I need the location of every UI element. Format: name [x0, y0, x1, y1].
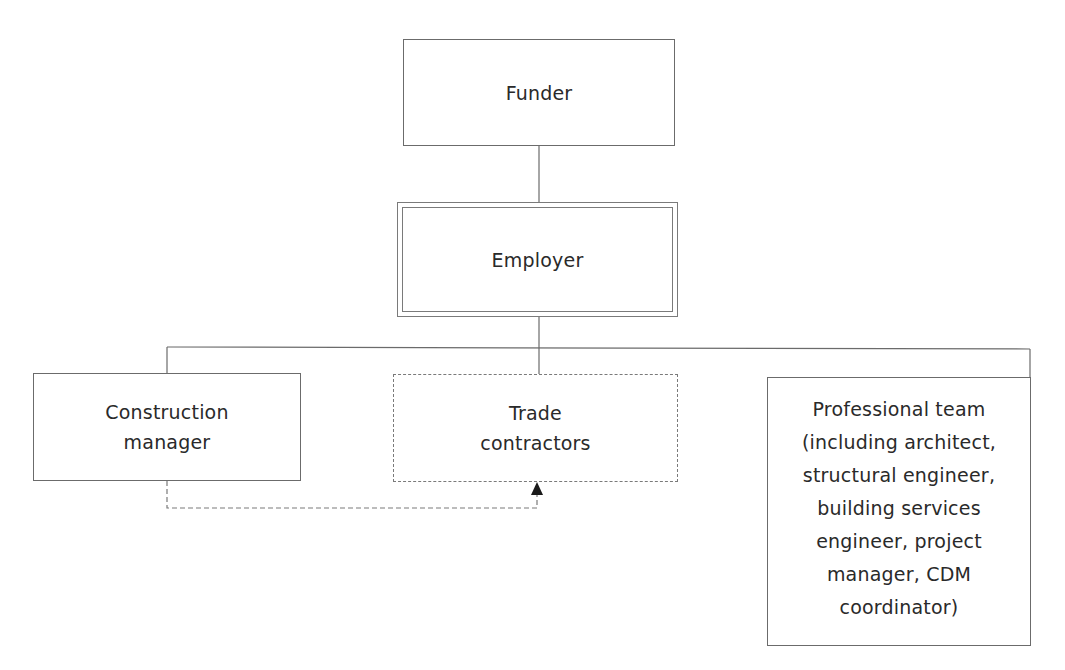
node-label-line: Trade: [480, 398, 590, 428]
node-label-line: contractors: [480, 428, 590, 458]
node-construction-manager-label: Construction manager: [105, 397, 228, 457]
node-funder-label: Funder: [506, 78, 573, 108]
node-trade-contractors-label: Trade contractors: [480, 398, 590, 458]
node-label-line: Construction: [105, 397, 228, 427]
node-label-line: manager: [105, 427, 228, 457]
node-trade-contractors: Trade contractors: [393, 374, 678, 482]
node-label-line: structural engineer,: [802, 459, 996, 492]
node-label-line: Funder: [506, 78, 573, 108]
node-label-line: Professional team: [802, 393, 996, 426]
node-label-line: Employer: [492, 245, 584, 275]
org-diagram: Funder Employer Construction manager Tra…: [0, 0, 1065, 670]
node-professional-team-label: Professional team (including architect, …: [802, 393, 996, 624]
edge-cm-to-trade-dashed: [167, 481, 537, 508]
node-label-line: coordinator): [802, 591, 996, 624]
node-professional-team: Professional team (including architect, …: [767, 377, 1031, 646]
node-label-line: (including architect,: [802, 426, 996, 459]
edge-branch-bar: [167, 347, 1030, 349]
node-employer-label: Employer: [492, 245, 584, 275]
node-funder: Funder: [403, 39, 675, 146]
node-label-line: engineer, project: [802, 525, 996, 558]
arrowhead-icon: [531, 482, 543, 495]
node-employer: Employer: [397, 202, 678, 317]
node-construction-manager: Construction manager: [33, 373, 301, 481]
node-label-line: manager, CDM: [802, 558, 996, 591]
node-label-line: building services: [802, 492, 996, 525]
